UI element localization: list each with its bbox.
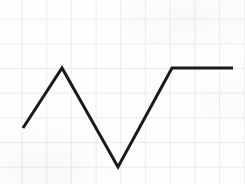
chart-canvas [0,0,245,184]
line-chart-svg [0,0,245,184]
